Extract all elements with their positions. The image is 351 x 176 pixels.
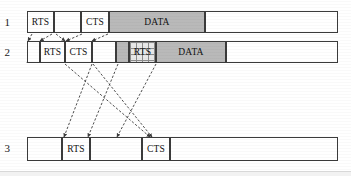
row-2-segment-rts-coll: RTS bbox=[129, 41, 156, 63]
arrow-r2-busy-to-r3 bbox=[88, 64, 118, 137]
row-2-segment-busy bbox=[116, 41, 129, 63]
row-1-segment-rts: RTS bbox=[27, 11, 54, 33]
row-2-segment-rts: RTS bbox=[40, 41, 65, 63]
row-label-1: 1 bbox=[0, 17, 10, 28]
row-3-segment-gap bbox=[90, 137, 142, 161]
row-label-2: 2 bbox=[0, 47, 10, 58]
row-3-segment-cts-label: CTS bbox=[147, 144, 165, 154]
row-3-segment-rts: RTS bbox=[62, 137, 90, 161]
row-2-segment-cts-label: CTS bbox=[69, 47, 87, 57]
protocol-timing-diagram: 1RTSCTSDATA2RTSCTSRTSDATA3RTSCTS bbox=[0, 0, 351, 176]
row-2-segment-slot-b bbox=[92, 41, 116, 63]
row-1-segment-gap bbox=[54, 11, 81, 33]
row-2-segment-slot-a bbox=[27, 41, 40, 63]
page-bottom-edge bbox=[0, 171, 351, 176]
row-1-segment-rts-label: RTS bbox=[32, 17, 49, 27]
row-1-segment-data: DATA bbox=[109, 11, 205, 33]
row-2-segment-idle bbox=[226, 41, 338, 63]
arrow-r1-cts-to-r2-a bbox=[56, 34, 65, 41]
row-3-segment-cts: CTS bbox=[142, 137, 170, 161]
arrow-r1-rts-to-r2-a bbox=[28, 34, 32, 41]
row-1-segment-idle bbox=[205, 11, 338, 33]
row-2-segment-rts-coll-label: RTS bbox=[134, 47, 151, 57]
row-1-segment-cts: CTS bbox=[81, 11, 109, 33]
arrow-r2-slot-to-r3 bbox=[93, 64, 152, 137]
row-1-segment-cts-label: CTS bbox=[86, 17, 104, 27]
row-2-segment-rts-label: RTS bbox=[44, 47, 61, 57]
row-label-3: 3 bbox=[0, 143, 10, 154]
row-2-segment-data-label: DATA bbox=[178, 47, 203, 57]
row-2-segment-data: DATA bbox=[156, 41, 226, 63]
row-3-segment-idle-right bbox=[170, 137, 338, 161]
row-2-segment-cts: CTS bbox=[65, 41, 92, 63]
arrow-r1-cts-to-r2-b bbox=[66, 34, 82, 41]
row-3-segment-rts-label: RTS bbox=[67, 144, 84, 154]
row-3-segment-idle-left bbox=[27, 137, 62, 161]
row-1-segment-data-label: DATA bbox=[144, 17, 169, 27]
arrow-r1-rts-to-r2-b bbox=[40, 34, 52, 41]
arrow-r1-data-to-r2 bbox=[92, 34, 108, 41]
